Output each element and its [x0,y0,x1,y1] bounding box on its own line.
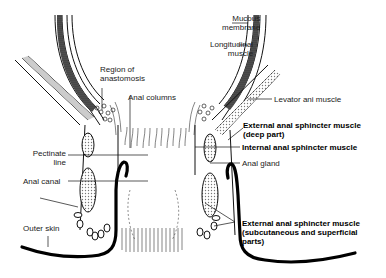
label-line: (deep part) [243,130,361,139]
label-line: muscle [210,49,253,58]
right-sphincters [195,125,235,239]
label-line: Anal columns [128,93,176,102]
label-anal-columns: Anal columns [128,93,176,102]
label-anal-canal: Anal canal [23,177,60,186]
label-outer-skin: Outer skin [23,224,59,233]
label-pectinate-line: Pectinate line [28,149,66,167]
label-line: Internal anal sphincter muscle [242,143,357,152]
label-anal-gland: Anal gland [242,159,280,168]
label-internal-sphincter: Internal anal sphincter muscle [242,143,357,152]
label-line: line [28,158,66,167]
anal-columns [110,102,200,148]
label-external-sphincter-superficial: External anal sphincter muscle (subcutan… [242,219,360,246]
label-line: Pectinate [28,149,66,158]
label-line: Anal gland [242,159,280,168]
label-line: External anal sphincter muscle [242,219,360,228]
label-levator-ani-muscle: Levator ani muscle [274,95,341,104]
label-line: membrane [222,23,260,32]
label-line: Region of [100,65,145,74]
label-line: Anal canal [23,177,60,186]
label-line: Levator ani muscle [274,95,341,104]
anal-canal-diagram: Mucous membrane Longitudinal muscle Regi… [0,0,386,278]
label-line: Outer skin [23,224,59,233]
left-sphincters [74,125,118,240]
label-external-sphincter-deep: External anal sphincter muscle (deep par… [243,121,361,139]
label-longitudinal-muscle: Longitudinal muscle [210,40,253,58]
label-line: parts) [242,237,360,246]
label-line: anastomosis [100,74,145,83]
outer-skin [22,162,355,262]
label-line: External anal sphincter muscle [243,121,361,130]
label-line: Mucous [222,14,260,23]
label-region-of-anastomosis: Region of anastomosis [100,65,145,83]
label-line: (subcutaneous and superficial [242,228,360,237]
anal-canal-lumen [128,190,179,240]
label-mucous-membrane: Mucous membrane [222,14,260,32]
label-line: Longitudinal [210,40,253,49]
perianal-striations [122,228,182,252]
